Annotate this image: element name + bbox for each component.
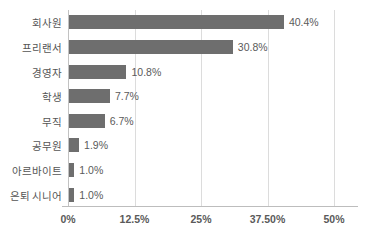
x-tick-label: 25% bbox=[190, 213, 211, 225]
bar bbox=[69, 89, 110, 103]
gridline-50pct bbox=[334, 10, 335, 207]
category-label: 회사원 bbox=[32, 15, 62, 30]
bar-value-label: 6.7% bbox=[110, 115, 134, 127]
plot-area: 회사원40.4%프리랜서30.8%경영자10.8%학생7.7%무직6.7%공무원… bbox=[68, 10, 334, 207]
bar-value-label: 1.0% bbox=[79, 164, 103, 176]
bar-row: 공무원1.9% bbox=[68, 133, 334, 158]
bar-value-label: 1.9% bbox=[84, 139, 108, 151]
bar-row: 학생7.7% bbox=[68, 84, 334, 109]
bar-value-label: 1.0% bbox=[79, 189, 103, 201]
category-label: 은퇴 시니어 bbox=[10, 187, 62, 202]
x-tick-label: 12.5% bbox=[120, 213, 150, 225]
bar bbox=[69, 188, 74, 202]
x-axis-tick-labels: 0%12.5%25%37.50%50% bbox=[0, 213, 367, 233]
bar bbox=[69, 40, 233, 54]
bar bbox=[69, 65, 126, 79]
x-tick-label: 37.50% bbox=[250, 213, 286, 225]
category-label: 아르바이트 bbox=[12, 163, 62, 178]
bar-row: 회사원40.4% bbox=[68, 10, 334, 35]
bar-row: 은퇴 시니어1.0% bbox=[68, 182, 334, 207]
bar-row: 아르바이트1.0% bbox=[68, 158, 334, 183]
x-tick-label: 50% bbox=[323, 213, 344, 225]
bar-value-label: 40.4% bbox=[289, 16, 319, 28]
bar-value-label: 30.8% bbox=[238, 41, 268, 53]
bar bbox=[69, 163, 74, 177]
category-label: 공무원 bbox=[32, 138, 62, 153]
x-axis-line bbox=[62, 206, 358, 207]
bar-value-label: 7.7% bbox=[115, 90, 139, 102]
x-tick-label: 0% bbox=[60, 213, 75, 225]
bar bbox=[69, 138, 79, 152]
bar-chart: 회사원40.4%프리랜서30.8%경영자10.8%학생7.7%무직6.7%공무원… bbox=[0, 0, 367, 245]
category-label: 프리랜서 bbox=[22, 39, 62, 54]
bar bbox=[69, 114, 105, 128]
bar-row: 무직6.7% bbox=[68, 109, 334, 134]
category-label: 학생 bbox=[42, 89, 62, 104]
category-label: 경영자 bbox=[32, 64, 62, 79]
bar-value-label: 10.8% bbox=[131, 66, 161, 78]
bar-rows: 회사원40.4%프리랜서30.8%경영자10.8%학생7.7%무직6.7%공무원… bbox=[68, 10, 334, 207]
bar bbox=[69, 15, 284, 29]
bar-row: 경영자10.8% bbox=[68, 59, 334, 84]
category-label: 무직 bbox=[42, 113, 62, 128]
bar-row: 프리랜서30.8% bbox=[68, 35, 334, 60]
